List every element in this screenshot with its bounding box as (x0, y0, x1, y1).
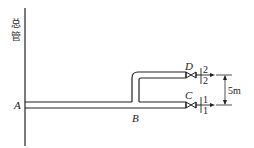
arrow-d-icon (210, 73, 215, 77)
arrow-c-icon (210, 103, 215, 107)
riser-pipe-outer (132, 72, 186, 102)
dimension-label: 5m (228, 85, 241, 96)
section-1-bottom: 1 (203, 105, 208, 116)
valve-c-icon (186, 102, 201, 108)
point-a-label: A (13, 99, 21, 111)
section-2-top: 2 (203, 64, 208, 75)
main-pipe-label-2: 管 (11, 30, 21, 42)
point-b-label: B (132, 112, 139, 124)
riser-pipe-inner (139, 78, 186, 102)
point-d-label: D (184, 60, 193, 72)
valve-d-icon (186, 72, 201, 78)
point-c-label: C (185, 89, 193, 101)
section-1-top: 1 (203, 94, 208, 105)
pipe-diagram: 总 管 A B C D 2 2 1 1 5m (0, 0, 254, 148)
main-pipe-label-1: 总 (11, 17, 21, 29)
section-2-bottom: 2 (203, 75, 208, 86)
